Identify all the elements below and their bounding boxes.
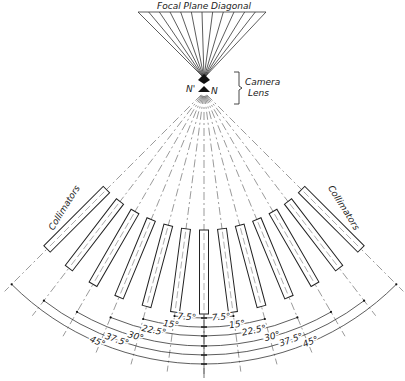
collimator [65, 199, 123, 271]
collimator [284, 199, 342, 271]
angle-label-left: 45° [88, 334, 107, 349]
front-node-marker [198, 86, 210, 92]
collimator [171, 228, 191, 312]
focal-ray [149, 12, 204, 78]
focal-ray [138, 12, 204, 78]
collimator [200, 230, 209, 314]
front-node-label: N [211, 86, 218, 96]
rear-node-marker [198, 74, 210, 84]
rear-node-label: N' [186, 84, 195, 94]
focal-plane-fan [138, 12, 266, 78]
focal-plane-title: Focal Plane Diagonal [157, 1, 251, 11]
angle-label-right: 45° [301, 334, 320, 349]
collimator-array [44, 186, 364, 314]
camera-lens-label-2: Lens [248, 88, 269, 98]
lens-brace [234, 72, 242, 104]
focal-ray [204, 12, 245, 78]
focal-ray [170, 12, 204, 78]
collimator-diagram: Focal Plane Diagonal N' N Camera Lens 7.… [0, 0, 405, 381]
collimator [218, 228, 238, 312]
camera-lens-label-1: Camera [245, 77, 280, 87]
angle-label-left: 7.5° [177, 311, 197, 322]
angle-label-left: 37.5° [104, 331, 130, 349]
focal-ray [181, 12, 204, 78]
